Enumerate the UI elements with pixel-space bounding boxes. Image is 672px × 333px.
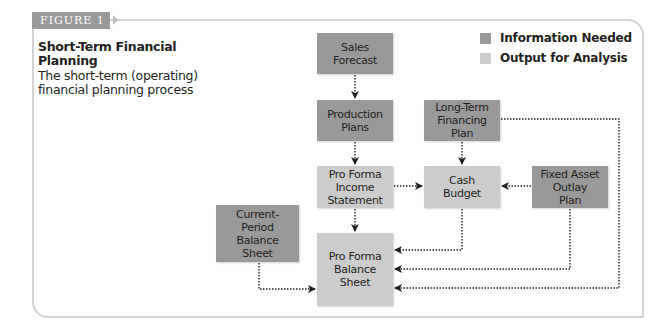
node-pro-forma-balance-sheet: Pro Forma Balance Sheet — [317, 233, 393, 306]
edge-fixed-to-bs — [395, 209, 570, 269]
edge-current-to-bs — [259, 263, 315, 289]
node-fixed-asset-outlay-plan: Fixed Asset Outlay Plan — [532, 166, 608, 208]
edge-cash-to-bs — [395, 209, 462, 250]
node-production-plans: Production Plans — [317, 100, 393, 141]
node-current-period-balance-sheet: Current- Period Balance Sheet — [216, 205, 299, 262]
node-cash-budget: Cash Budget — [424, 166, 500, 208]
node-pro-forma-income-statement: Pro Forma Income Statement — [317, 166, 393, 208]
node-sales-forecast: Sales Forecast — [317, 33, 393, 74]
node-long-term-financing-plan: Long-Term Financing Plan — [424, 100, 500, 141]
